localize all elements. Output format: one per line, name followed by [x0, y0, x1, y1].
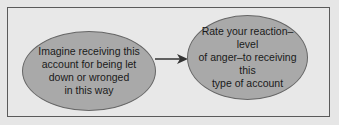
node-rate-reaction-label: Rate your reaction–level of anger–to rec… [193, 25, 303, 90]
arrow-connector [155, 52, 189, 66]
node-imagine-account: Imagine receiving this account for being… [22, 31, 156, 111]
node-imagine-account-label: Imagine receiving this account for being… [34, 45, 144, 97]
node-rate-reaction: Rate your reaction–level of anger–to rec… [187, 15, 308, 100]
